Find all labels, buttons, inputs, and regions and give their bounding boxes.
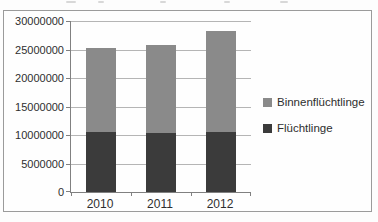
y-axis-tick xyxy=(66,164,70,165)
cropped-text-artifact xyxy=(66,1,76,3)
chart-frame: 3000000025000000200000001500000010000000… xyxy=(3,10,372,212)
y-axis-label: 0 xyxy=(8,186,64,198)
y-axis-tick xyxy=(66,135,70,136)
y-axis-label: 15000000 xyxy=(8,101,64,113)
cropped-text-artifact xyxy=(98,1,104,3)
bar-segment-Flüchtlinge-2010 xyxy=(86,132,116,192)
cropped-text-artifact xyxy=(160,1,166,3)
bar-segment-Binnenflüchtlinge-2011 xyxy=(146,45,176,133)
y-axis-label: 10000000 xyxy=(8,129,64,141)
y-axis-tick xyxy=(66,191,70,192)
legend: BinnenflüchtlingeFlüchtlinge xyxy=(263,97,365,134)
y-axis-tick xyxy=(66,50,70,51)
scanned-chart-page: 3000000025000000200000001500000010000000… xyxy=(0,0,378,222)
legend-item-Binnenflüchtlinge: Binnenflüchtlinge xyxy=(263,97,365,108)
y-axis-tick xyxy=(66,78,70,79)
gridline xyxy=(71,21,251,22)
bar-segment-Binnenflüchtlinge-2010 xyxy=(86,48,116,132)
cropped-text-artifact xyxy=(280,1,288,3)
cropped-text-artifact xyxy=(224,1,230,3)
x-axis-tick xyxy=(191,192,192,196)
legend-swatch-icon xyxy=(263,124,272,133)
y-axis-label: 20000000 xyxy=(8,72,64,84)
legend-item-Flüchtlinge: Flüchtlinge xyxy=(263,123,365,134)
plot-area xyxy=(70,21,251,193)
x-axis-tick xyxy=(250,192,251,196)
bar-segment-Flüchtlinge-2012 xyxy=(206,132,236,192)
legend-label: Binnenflüchtlinge xyxy=(277,97,365,108)
x-axis-label: 2010 xyxy=(70,197,130,211)
bar-segment-Binnenflüchtlinge-2012 xyxy=(206,31,236,132)
legend-label: Flüchtlinge xyxy=(277,123,333,134)
y-axis-tick xyxy=(66,21,70,22)
x-axis-label: 2012 xyxy=(190,197,250,211)
x-axis-label: 2011 xyxy=(130,197,190,211)
y-axis-label: 25000000 xyxy=(8,44,64,56)
x-axis-tick xyxy=(71,192,72,196)
y-axis-tick xyxy=(66,107,70,108)
legend-swatch-icon xyxy=(263,98,272,107)
bar-segment-Flüchtlinge-2011 xyxy=(146,133,176,192)
y-axis-label: 30000000 xyxy=(8,15,64,27)
y-axis-label: 5000000 xyxy=(8,158,64,170)
x-axis-tick xyxy=(131,192,132,196)
